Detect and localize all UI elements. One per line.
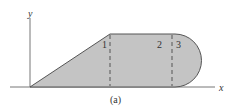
figure-caption: (a) bbox=[110, 94, 121, 106]
composite-area-figure: y x 1 2 3 (a) bbox=[0, 0, 234, 110]
region-3-label: 3 bbox=[176, 39, 181, 50]
y-axis-label: y bbox=[27, 8, 33, 19]
region-1-label: 1 bbox=[102, 39, 107, 50]
region-2-label: 2 bbox=[157, 39, 162, 50]
figure-canvas: y x 1 2 3 (a) bbox=[0, 0, 234, 110]
x-axis-label: x bbox=[218, 82, 224, 93]
